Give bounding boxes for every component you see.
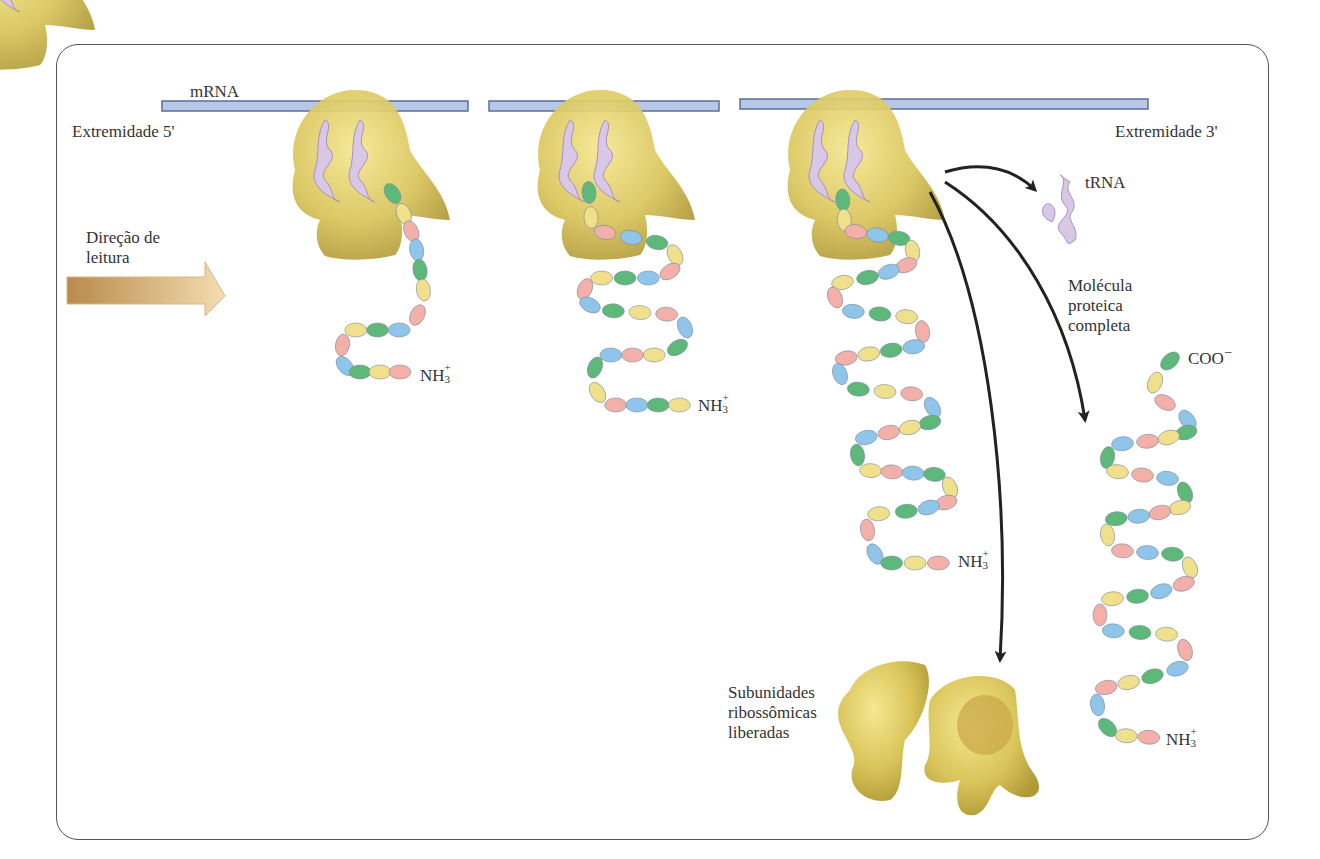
nh-text: NH xyxy=(1166,730,1191,749)
mrna-label: mRNA xyxy=(190,82,239,102)
three-prime-end-label: Extremidade 3' xyxy=(1115,122,1218,142)
amino-terminus-label-3: NH+3 xyxy=(958,552,991,572)
charge: + xyxy=(445,361,451,373)
chain-complete-protein xyxy=(1089,348,1201,745)
subunits-label-line1: Subunidades xyxy=(728,683,815,703)
released-ribosomal-subunits xyxy=(838,661,1039,815)
subscript: 3 xyxy=(983,559,989,571)
charge: + xyxy=(983,547,989,559)
process-arrows xyxy=(930,167,1085,660)
reading-direction-arrow xyxy=(67,262,225,316)
released-trna xyxy=(1042,175,1076,244)
subscript: 3 xyxy=(445,373,451,385)
subscript: 3 xyxy=(723,403,729,415)
direction-label-line2: leitura xyxy=(86,248,129,268)
carboxyl-terminus-label: COO− xyxy=(1188,344,1232,369)
direction-label-line1: Direção de xyxy=(86,228,160,248)
subunits-label-line3: liberadas xyxy=(728,723,789,743)
protein-label-line1: Molécula xyxy=(1068,276,1132,296)
subunits-label-line2: ribossômicas xyxy=(728,703,817,723)
protein-label-line2: proteica xyxy=(1068,296,1123,316)
coo-text: COO xyxy=(1188,349,1224,368)
nh-text: NH xyxy=(420,366,445,385)
charge: − xyxy=(1224,344,1232,360)
amino-terminus-label-4: NH+3 xyxy=(1166,730,1199,750)
five-prime-end-label: Extremidade 5' xyxy=(72,122,175,142)
charge: + xyxy=(723,391,729,403)
polypeptide-chains xyxy=(333,180,1201,745)
protein-label-line3: completa xyxy=(1068,316,1130,336)
amino-terminus-label-1: NH+3 xyxy=(420,366,453,386)
mrna-strand xyxy=(162,99,1148,111)
charge: + xyxy=(1191,725,1197,737)
amino-terminus-label-2: NH+3 xyxy=(698,396,731,416)
subscript: 3 xyxy=(1191,737,1197,749)
trna-label: tRNA xyxy=(1085,173,1126,193)
ribosome-stage-2 xyxy=(538,90,695,260)
nh-text: NH xyxy=(958,552,983,571)
ribosome-stage-1 xyxy=(293,90,450,260)
nh-text: NH xyxy=(698,396,723,415)
